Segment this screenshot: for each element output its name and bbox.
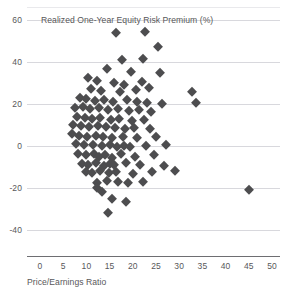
scatter-point: [147, 167, 157, 177]
x-axis-tick-label: 5: [53, 261, 73, 271]
gridline-y-20: [27, 104, 280, 105]
scatter-point: [191, 98, 201, 108]
scatter-point: [135, 160, 145, 170]
y-axis-tick-label: 40: [0, 57, 22, 67]
x-axis-tick-label: 30: [169, 261, 189, 271]
scatter-point: [159, 161, 169, 171]
scatter-point: [130, 85, 140, 95]
scatter-point: [113, 176, 123, 186]
scatter-point: [153, 42, 163, 52]
y-axis-tick-label: 0: [0, 141, 22, 151]
scatter-point: [124, 106, 134, 116]
scatter-point: [86, 84, 96, 94]
scatter-point: [121, 158, 131, 168]
chart-container: 6040200-20-4005101520253035404550 Realiz…: [0, 0, 284, 299]
scatter-point: [146, 107, 156, 117]
scatter-point: [102, 64, 112, 74]
x-axis-tick-label: 15: [100, 261, 120, 271]
scatter-point: [151, 131, 161, 141]
scatter-point: [161, 140, 171, 150]
scatter-point: [154, 67, 164, 77]
x-axis-tick-label: 45: [239, 261, 259, 271]
scatter-point: [149, 150, 159, 160]
x-axis-label: Price/Earnings Ratio: [27, 277, 106, 287]
scatter-point: [244, 185, 254, 195]
chart-title: Realized One-Year Equity Risk Premium (%…: [41, 15, 213, 25]
scatter-point: [109, 78, 119, 88]
scatter-point: [121, 196, 131, 206]
scatter-point: [102, 175, 112, 185]
scatter-point: [132, 132, 142, 142]
scatter-point: [139, 115, 149, 125]
scatter-point: [102, 105, 112, 115]
scatter-point: [126, 66, 136, 76]
gridline-y-40: [27, 62, 280, 63]
x-axis-tick-label: 20: [123, 261, 143, 271]
y-axis-tick-label: 20: [0, 99, 22, 109]
plot-area: 6040200-20-4005101520253035404550: [0, 0, 284, 299]
scatter-point: [141, 141, 151, 151]
y-axis-tick-label: -20: [0, 183, 22, 193]
scatter-point: [156, 99, 166, 109]
scatter-point: [138, 176, 148, 186]
scatter-point: [106, 193, 116, 203]
x-axis-tick-label: 10: [76, 261, 96, 271]
gridline-y--20: [27, 188, 280, 189]
gridline-y-0: [27, 146, 280, 147]
scatter-point: [169, 166, 179, 176]
x-axis-tick-label: 0: [30, 261, 50, 271]
scatter-point: [111, 167, 121, 177]
scatter-point: [111, 27, 121, 37]
y-axis-tick-label: -40: [0, 225, 22, 235]
scatter-point: [116, 55, 126, 65]
scatter-point: [84, 122, 94, 132]
x-axis-tick-label: 25: [146, 261, 166, 271]
scatter-point: [123, 178, 133, 188]
scatter-point: [187, 87, 197, 97]
x-axis-tick-label: 50: [262, 261, 282, 271]
x-axis-tick-label: 40: [216, 261, 236, 271]
y-axis-tick-label: 60: [0, 15, 22, 25]
x-axis-line: [27, 256, 280, 257]
scatter-point: [140, 26, 150, 36]
scatter-point: [102, 208, 112, 218]
gridline-y--40: [27, 230, 280, 231]
scatter-point: [143, 83, 153, 93]
x-axis-tick-label: 35: [192, 261, 212, 271]
